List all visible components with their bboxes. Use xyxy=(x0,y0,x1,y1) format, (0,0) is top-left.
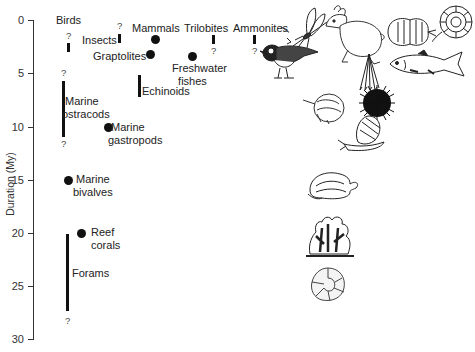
range-bar-forams xyxy=(66,234,69,311)
label-mammals: Mammals xyxy=(132,22,180,35)
fish-illustration xyxy=(388,48,468,80)
point-freshwater-fishes xyxy=(188,52,197,61)
range-bar-echinoids xyxy=(138,75,141,97)
label-marine-bivalves: Marine bivalves xyxy=(73,173,113,199)
y-tick-20 xyxy=(28,233,34,234)
y-tick-label-0: 0 xyxy=(4,14,24,26)
label-marine-gastropods: Marine gastropods xyxy=(108,121,162,147)
range-bar-ammonites xyxy=(253,35,256,44)
label-birds: Birds xyxy=(56,14,81,27)
y-tick-10 xyxy=(28,127,34,128)
ammonite-illustration xyxy=(432,2,474,46)
range-bar-trilobites xyxy=(212,35,215,44)
trilobite-illustration xyxy=(384,14,436,52)
label-marine-ostracods: Marine ostracods xyxy=(62,95,110,121)
duration-chart: Duration (My) 0 5 10 15 20 25 30 Birds ?… xyxy=(0,0,475,352)
uncertain-mark: ? xyxy=(117,21,122,31)
gastropod-illustration xyxy=(338,112,390,154)
range-bar-birds xyxy=(67,43,70,52)
uncertain-mark: ? xyxy=(252,46,257,56)
y-tick-label-15: 15 xyxy=(4,174,24,186)
label-graptolites: Graptolites xyxy=(93,50,146,63)
y-tick-label-25: 25 xyxy=(4,280,24,292)
uncertain-mark: ? xyxy=(61,139,66,149)
label-ammonites: Ammonites xyxy=(233,22,288,35)
point-graptolites xyxy=(146,50,155,59)
y-tick-25 xyxy=(28,286,34,287)
point-mammals xyxy=(151,35,160,44)
y-tick-label-30: 30 xyxy=(4,333,24,345)
y-tick-0 xyxy=(28,20,34,21)
y-tick-15 xyxy=(28,180,34,181)
y-tick-5 xyxy=(28,73,34,74)
point-reef-corals xyxy=(77,229,86,238)
y-tick-label-20: 20 xyxy=(4,227,24,239)
uncertain-mark: ? xyxy=(66,31,71,41)
range-bar-insects xyxy=(118,34,121,43)
label-reef-corals: Reef corals xyxy=(91,226,120,252)
y-tick-label-10: 10 xyxy=(4,121,24,133)
label-trilobites: Trilobites xyxy=(184,22,228,35)
y-tick-30 xyxy=(28,339,34,340)
label-forams: Forams xyxy=(72,267,109,280)
uncertain-mark: ? xyxy=(65,316,70,326)
uncertain-mark: ? xyxy=(211,46,216,56)
uncertain-mark: ? xyxy=(61,68,66,78)
label-echinoids: Echinoids xyxy=(142,85,190,98)
coral-illustration xyxy=(304,214,356,260)
y-tick-label-5: 5 xyxy=(4,67,24,79)
label-insects: Insects xyxy=(82,34,117,47)
bivalve-illustration xyxy=(306,168,360,202)
foram-illustration xyxy=(308,264,348,304)
point-marine-bivalves xyxy=(64,176,73,185)
bird-illustration xyxy=(260,40,322,82)
